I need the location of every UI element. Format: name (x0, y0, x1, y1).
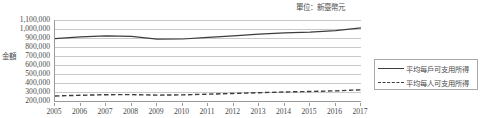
x-tick-label: 2006 (72, 107, 87, 116)
y-tick-label: 400,000 (25, 79, 50, 87)
series-lines (55, 20, 361, 101)
plot-area (54, 20, 361, 102)
y-tick-label: 1,000,000 (20, 25, 50, 33)
x-tickmark (335, 103, 336, 106)
legend-item-percapita: 平均每人可支用所得 (378, 76, 477, 89)
series-line-household (55, 28, 361, 39)
legend: 平均每戶可支用所得 平均每人可支用所得 (374, 59, 478, 90)
legend-item-household: 平均每戶可支用所得 (378, 62, 477, 75)
x-tickmark (131, 103, 132, 106)
x-tick-label: 2017 (352, 107, 367, 116)
x-tickmark (80, 103, 81, 106)
x-tickmark (309, 103, 310, 106)
unit-note: 單位：新臺幣元 (296, 1, 345, 12)
x-tick-label: 2010 (174, 107, 189, 116)
x-tick-label: 2008 (123, 107, 138, 116)
x-tickmark (156, 103, 157, 106)
y-axis-tick-labels: 1,100,0001,000,000900,000800,000700,0006… (0, 14, 52, 108)
x-tick-label: 2014 (276, 107, 291, 116)
x-tickmark (54, 103, 55, 106)
y-tick-label: 500,000 (25, 70, 50, 78)
x-tick-label: 2012 (225, 107, 240, 116)
x-tick-label: 2007 (97, 107, 112, 116)
y-tick-label: 200,000 (25, 97, 50, 105)
x-tickmark (360, 103, 361, 106)
x-tick-label: 2013 (250, 107, 265, 116)
legend-swatch-solid-icon (378, 64, 404, 74)
series-line-percapita (55, 90, 361, 96)
x-tick-label: 2009 (148, 107, 163, 116)
y-tick-label: 300,000 (25, 88, 50, 96)
x-tickmark (105, 103, 106, 106)
legend-swatch-dashed-icon (378, 78, 404, 88)
y-tick-label: 900,000 (25, 34, 50, 42)
x-tick-label: 2011 (200, 107, 215, 116)
x-tickmark (207, 103, 208, 106)
x-tick-label: 2005 (46, 107, 61, 116)
y-tick-label: 1,100,000 (20, 16, 50, 24)
x-tickmark (258, 103, 259, 106)
x-tickmark (284, 103, 285, 106)
y-tick-label: 800,000 (25, 43, 50, 51)
y-tick-label: 700,000 (25, 52, 50, 60)
x-tick-label: 2016 (327, 107, 342, 116)
x-tick-label: 2015 (301, 107, 316, 116)
x-tickmark (233, 103, 234, 106)
legend-label-household: 平均每戶可支用所得 (406, 64, 469, 74)
legend-label-percapita: 平均每人可支用所得 (406, 78, 469, 88)
x-tickmark (182, 103, 183, 106)
gridline (55, 101, 361, 102)
x-axis-tick-labels: 2005200620072008200920102011201220132014… (54, 103, 360, 117)
income-line-chart: 單位：新臺幣元 金額 1,100,0001,000,000900,000800,… (0, 0, 480, 118)
y-tick-label: 600,000 (25, 61, 50, 69)
